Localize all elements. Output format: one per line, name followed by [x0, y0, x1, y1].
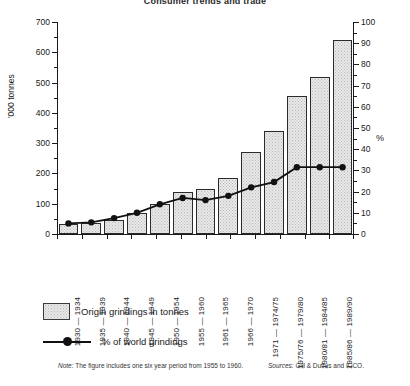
x-tick-label: 1985/86 — 1989/90 [345, 297, 354, 369]
x-tick [107, 235, 108, 239]
note-text: The figure includes one six year period … [74, 362, 244, 369]
line-marker [65, 220, 71, 226]
chart-note: Note: The figure includes one six year p… [58, 362, 243, 369]
line-marker [157, 201, 163, 207]
x-tick [82, 235, 83, 239]
right-minor-tick [354, 202, 357, 203]
line-swatch-icon [43, 333, 91, 350]
right-tick [354, 192, 359, 193]
right-tick [354, 107, 359, 108]
right-minor-tick [354, 33, 357, 34]
line-marker [179, 195, 185, 201]
right-tick-label: 50 [361, 123, 370, 133]
right-tick [354, 86, 359, 87]
x-axis-labels: 1930 — 19341935 — 19391940 — 19441945 — … [57, 241, 354, 299]
right-minor-tick [354, 160, 357, 161]
right-minor-tick [354, 75, 357, 76]
right-tick [354, 149, 359, 150]
source-prefix: Sources: [268, 362, 294, 369]
left-tick-label: 0 [45, 229, 50, 239]
right-axis: % 0102030405060708090100 [354, 0, 410, 260]
left-axis: '000 tonnes 0100200300400500600700 [0, 0, 57, 260]
line-marker [225, 193, 231, 199]
right-tick-label: 60 [361, 102, 370, 112]
x-tick [305, 235, 306, 239]
right-tick [354, 213, 359, 214]
right-minor-tick [354, 181, 357, 182]
right-tick-label: 70 [361, 81, 370, 91]
right-tick-label: 30 [361, 165, 370, 175]
right-tick [354, 64, 359, 65]
x-tick [181, 235, 182, 239]
line-path [68, 167, 342, 223]
right-tick-label: 0 [361, 229, 366, 239]
right-tick-label: 10 [361, 208, 370, 218]
legend-item-line: % of world grindings [43, 333, 188, 350]
x-tick [353, 235, 354, 239]
line-marker [202, 197, 208, 203]
right-minor-tick [354, 117, 357, 118]
right-tick-label: 40 [361, 144, 370, 154]
x-tick [255, 235, 256, 239]
right-minor-tick [354, 54, 357, 55]
right-minor-tick [354, 139, 357, 140]
x-tick [230, 235, 231, 239]
x-tick [156, 235, 157, 239]
x-tick [57, 235, 58, 239]
left-axis-label: '000 tonnes [6, 74, 16, 118]
right-minor-tick [354, 223, 357, 224]
right-tick [354, 170, 359, 171]
left-tick-label: 100 [36, 199, 50, 209]
chart-title: Consumer trends and trade [0, 0, 410, 4]
line-marker [317, 164, 323, 170]
legend-label-line: % of world grindings [102, 336, 188, 347]
line-marker [248, 184, 254, 190]
right-tick [354, 128, 359, 129]
x-axis-ticks [57, 235, 354, 240]
right-minor-tick [354, 96, 357, 97]
left-tick-label: 600 [36, 47, 50, 57]
right-tick [354, 234, 359, 235]
source-text: Gill & Duffus and ICCO. [294, 362, 364, 369]
x-tick [329, 235, 330, 239]
x-tick [131, 235, 132, 239]
line-marker [271, 179, 277, 185]
plot-area [57, 22, 354, 235]
right-tick-label: 90 [361, 38, 370, 48]
left-tick-label: 700 [36, 17, 50, 27]
legend-label-bars: Origin grindings in tonnes [81, 306, 189, 317]
legend: Origin grindings in tonnes % of world gr… [43, 303, 303, 349]
right-axis-label: % [376, 133, 384, 143]
right-tick-label: 100 [361, 17, 375, 27]
note-prefix: Note: [58, 362, 74, 369]
right-tick-label: 20 [361, 187, 370, 197]
legend-item-bars: Origin grindings in tonnes [43, 303, 189, 320]
line-marker [111, 215, 117, 221]
line-marker [339, 164, 345, 170]
x-tick [280, 235, 281, 239]
line-marker [134, 210, 140, 216]
right-tick [354, 43, 359, 44]
line-marker [294, 164, 300, 170]
right-tick [354, 22, 359, 23]
line-marker [88, 219, 94, 225]
line-series [57, 22, 354, 235]
chart-source: Sources: Gill & Duffus and ICCO. [268, 362, 364, 369]
left-tick-label: 300 [36, 138, 50, 148]
right-tick-label: 80 [361, 59, 370, 69]
x-tick-label: 1980/81 — 1984/85 [320, 297, 329, 369]
bar-swatch-icon [43, 303, 70, 320]
x-tick [206, 235, 207, 239]
left-tick-label: 200 [36, 168, 50, 178]
left-tick-label: 500 [36, 78, 50, 88]
left-tick-label: 400 [36, 108, 50, 118]
